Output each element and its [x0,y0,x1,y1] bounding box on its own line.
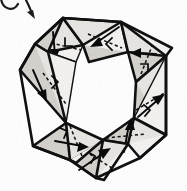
figure-canvas: ring of hinged tetrahedra (kaleidocycle) [0,0,187,191]
paper-grain-texture [0,0,187,191]
kaleidocycle-illustration [0,0,187,191]
